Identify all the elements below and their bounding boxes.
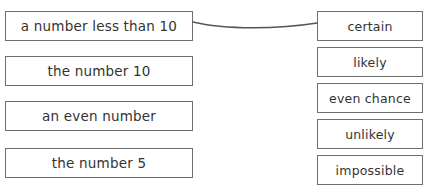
likelihood-card-label: even chance bbox=[329, 91, 411, 106]
likelihood-card-impossible[interactable]: impossible bbox=[317, 155, 423, 185]
event-card-label: an even number bbox=[42, 108, 156, 124]
event-card-label: a number less than 10 bbox=[21, 18, 177, 34]
event-card-the-number-5[interactable]: the number 5 bbox=[5, 148, 193, 178]
likelihood-card-likely[interactable]: likely bbox=[317, 47, 423, 77]
probability-matching-worksheet: a number less than 10 the number 10 an e… bbox=[0, 0, 431, 192]
likelihood-card-label: unlikely bbox=[345, 127, 395, 142]
likelihood-card-unlikely[interactable]: unlikely bbox=[317, 119, 423, 149]
likelihood-card-certain[interactable]: certain bbox=[317, 11, 423, 41]
event-card-label: the number 5 bbox=[52, 155, 146, 171]
likelihood-card-label: likely bbox=[353, 55, 387, 70]
event-card-label: the number 10 bbox=[47, 63, 150, 79]
likelihood-card-even-chance[interactable]: even chance bbox=[317, 83, 423, 113]
likelihood-card-label: impossible bbox=[336, 163, 405, 178]
likelihood-card-label: certain bbox=[347, 19, 392, 34]
event-card-a-number-less-than-10[interactable]: a number less than 10 bbox=[5, 11, 193, 41]
event-card-an-even-number[interactable]: an even number bbox=[5, 101, 193, 131]
event-card-the-number-10[interactable]: the number 10 bbox=[5, 56, 193, 86]
connector-line[interactable] bbox=[193, 22, 317, 28]
